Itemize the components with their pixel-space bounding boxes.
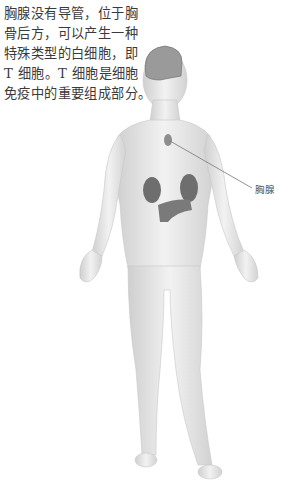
brain-graphic [145, 46, 182, 80]
thymus-label: 胸腺 [255, 182, 275, 196]
kidney-left [143, 177, 161, 203]
human-body-illustration [0, 0, 281, 497]
kidney-right [180, 174, 198, 202]
thymus-organ [164, 134, 172, 146]
body-figure [80, 51, 258, 479]
